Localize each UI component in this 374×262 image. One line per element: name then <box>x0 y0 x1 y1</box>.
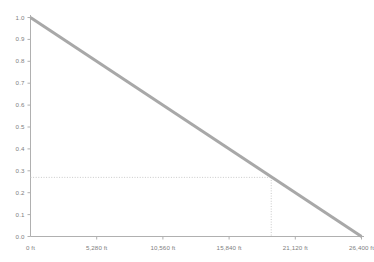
y-tick-label: 0.5 <box>0 124 25 130</box>
y-tick-label: 0.4 <box>0 146 25 152</box>
x-tick-label: 10,560 ft <box>150 245 175 251</box>
y-tick-label: 1.0 <box>0 14 25 20</box>
y-tick-label: 0.1 <box>0 211 25 217</box>
data-series-group <box>31 18 362 237</box>
x-tick-label: 26,400 ft <box>349 245 374 251</box>
x-tick-label: 21,120 ft <box>283 245 308 251</box>
y-tick-label: 0.3 <box>0 168 25 174</box>
y-tick-label: 0.6 <box>0 102 25 108</box>
y-tick-label: 0.0 <box>0 233 25 239</box>
reference-guide-lines <box>31 177 272 236</box>
y-tick-label: 0.9 <box>0 36 25 42</box>
x-tick-label: 15,840 ft <box>217 245 242 251</box>
y-tick-label: 0.8 <box>0 58 25 64</box>
x-tick-label: 5,280 ft <box>86 245 107 251</box>
y-tick-label: 0.2 <box>0 190 25 196</box>
y-tick-label: 0.7 <box>0 80 25 86</box>
x-tick-label: 0 ft <box>26 245 35 251</box>
data-series-line <box>31 18 362 237</box>
